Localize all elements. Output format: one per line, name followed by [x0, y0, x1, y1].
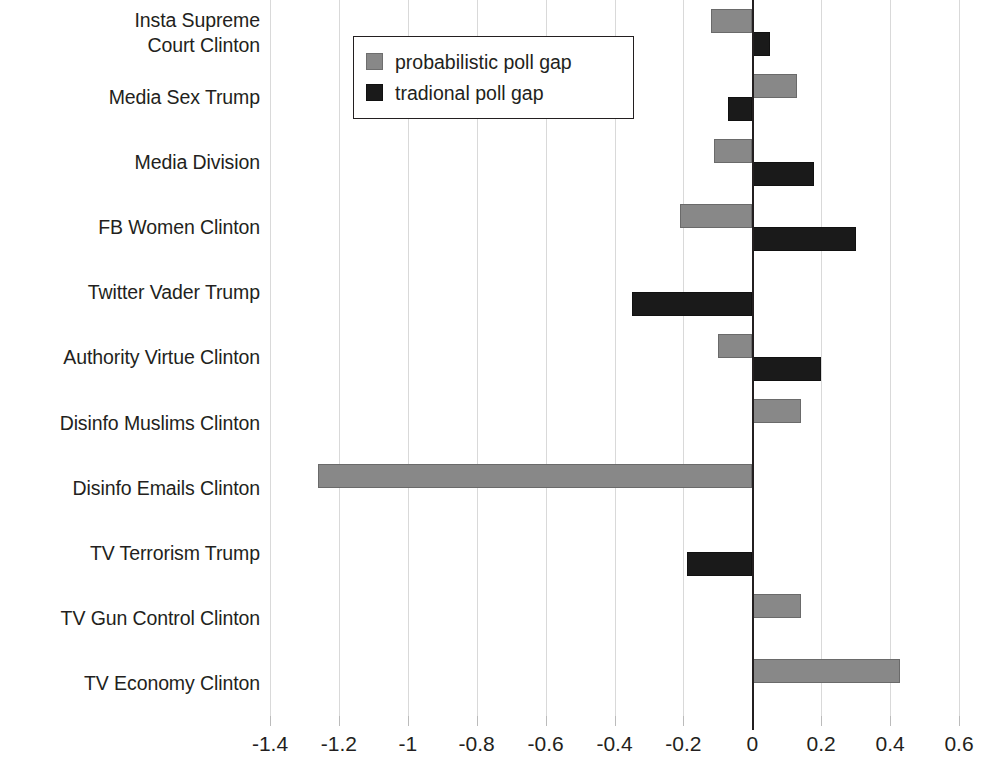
x-axis-tick	[615, 716, 616, 726]
probabilistic-swatch-icon	[366, 53, 383, 70]
category-row: TV Terrorism Trump	[0, 521, 981, 586]
x-axis-tick	[270, 716, 271, 726]
category-label: TV Gun Control Clinton	[0, 606, 260, 631]
category-label: Disinfo Muslims Clinton	[0, 411, 260, 436]
bar-tradional	[752, 357, 821, 381]
category-row: FB Women Clinton	[0, 195, 981, 260]
category-label: Media Division	[0, 150, 260, 175]
bar-chart: Insta Supreme Court ClintonMedia Sex Tru…	[0, 0, 981, 763]
bar-tradional	[752, 32, 769, 56]
x-axis: -1.4-1.2-1-0.8-0.6-0.4-0.200.20.40.6	[0, 716, 981, 763]
bar-probabilistic	[752, 399, 800, 423]
category-label: Twitter Vader Trump	[0, 280, 260, 305]
bar-probabilistic	[714, 139, 752, 163]
category-label: Disinfo Emails Clinton	[0, 476, 260, 501]
category-label: TV Economy Clinton	[0, 671, 260, 696]
legend: probabilistic poll gap tradional poll ga…	[353, 36, 634, 119]
category-row: Disinfo Emails Clinton	[0, 456, 981, 521]
legend-label-tradional: tradional poll gap	[395, 82, 544, 104]
category-label: Media Sex Trump	[0, 85, 260, 110]
category-label: Authority Virtue Clinton	[0, 345, 260, 370]
x-axis-tick	[683, 716, 684, 726]
category-row: TV Gun Control Clinton	[0, 586, 981, 651]
bar-probabilistic	[711, 9, 752, 33]
x-axis-tick	[339, 716, 340, 726]
x-axis-tick	[752, 716, 754, 730]
x-axis-tick	[959, 716, 960, 726]
x-axis-tick	[408, 716, 409, 726]
category-label: TV Terrorism Trump	[0, 541, 260, 566]
category-row: TV Economy Clinton	[0, 651, 981, 716]
legend-label-probabilistic: probabilistic poll gap	[395, 51, 572, 73]
bar-probabilistic	[718, 334, 752, 358]
category-row: Media Division	[0, 130, 981, 195]
x-axis-tick	[546, 716, 547, 726]
tradional-swatch-icon	[366, 84, 383, 101]
category-row: Twitter Vader Trump	[0, 260, 981, 325]
category-label: Insta Supreme Court Clinton	[0, 8, 260, 58]
bar-probabilistic	[752, 74, 797, 98]
x-axis-tick	[477, 716, 478, 726]
bar-tradional	[632, 292, 753, 316]
x-axis-tick-label: 0.6	[919, 732, 981, 756]
bar-tradional	[728, 97, 752, 121]
x-axis-tick	[821, 716, 822, 726]
bar-probabilistic	[680, 204, 752, 228]
category-row: Authority Virtue Clinton	[0, 325, 981, 390]
category-label: FB Women Clinton	[0, 215, 260, 240]
bar-probabilistic	[318, 464, 752, 488]
legend-entry-tradional[interactable]: tradional poll gap	[366, 77, 621, 108]
legend-entry-probabilistic[interactable]: probabilistic poll gap	[366, 46, 621, 77]
x-axis-tick	[890, 716, 891, 726]
bar-tradional	[752, 162, 814, 186]
bar-probabilistic	[752, 659, 900, 683]
bar-tradional	[752, 227, 855, 251]
bar-tradional	[687, 552, 752, 576]
bar-probabilistic	[752, 594, 800, 618]
category-row: Disinfo Muslims Clinton	[0, 391, 981, 456]
